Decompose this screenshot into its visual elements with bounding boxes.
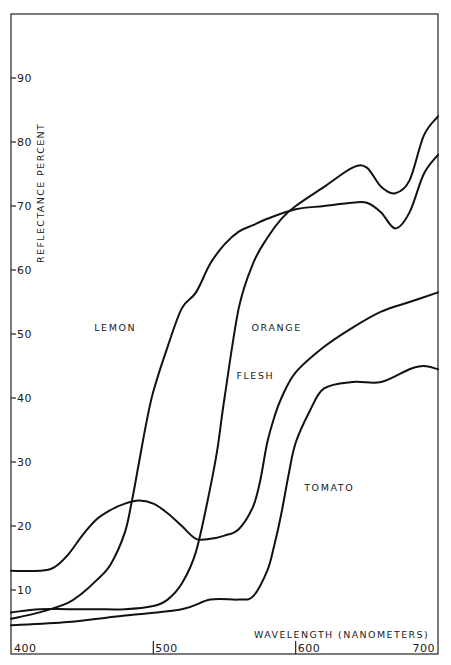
series-label-tomato: TOMATO bbox=[303, 482, 354, 493]
y-tick-label: 50 bbox=[17, 328, 32, 341]
y-tick-label: 60 bbox=[17, 264, 32, 277]
x-tick-label: 600 bbox=[298, 642, 321, 655]
plot-frame bbox=[11, 14, 438, 654]
series-label-flesh: FLESH bbox=[236, 370, 274, 381]
y-tick-label: 80 bbox=[17, 136, 32, 149]
y-axis-ticks: 102030405060708090 bbox=[11, 72, 32, 597]
x-tick-label: 400 bbox=[14, 642, 37, 655]
y-tick-label: 70 bbox=[17, 200, 32, 213]
curve-orange bbox=[11, 116, 438, 612]
series-label-lemon: LEMON bbox=[94, 322, 136, 333]
x-axis-title: WAVELENGTH (NANOMETERS) bbox=[254, 629, 429, 640]
x-tick-label: 700 bbox=[413, 642, 436, 655]
x-tick-label: 500 bbox=[155, 642, 178, 655]
curve-flesh bbox=[11, 292, 438, 571]
series-labels: LEMONORANGEFLESHTOMATO bbox=[94, 322, 354, 493]
y-tick-label: 30 bbox=[17, 456, 32, 469]
y-tick-label: 90 bbox=[17, 72, 32, 85]
reflectance-chart: 102030405060708090 400500600700 LEMONORA… bbox=[0, 0, 451, 665]
y-tick-label: 10 bbox=[17, 584, 32, 597]
curve-tomato bbox=[11, 366, 438, 625]
y-axis-title: REFLECTANCE PERCENT bbox=[35, 123, 46, 263]
series-curves bbox=[11, 116, 438, 625]
series-label-orange: ORANGE bbox=[252, 322, 302, 333]
y-tick-label: 40 bbox=[17, 392, 32, 405]
y-tick-label: 20 bbox=[17, 520, 32, 533]
x-axis-ticks: 400500600700 bbox=[14, 641, 435, 655]
curve-lemon bbox=[11, 155, 438, 619]
